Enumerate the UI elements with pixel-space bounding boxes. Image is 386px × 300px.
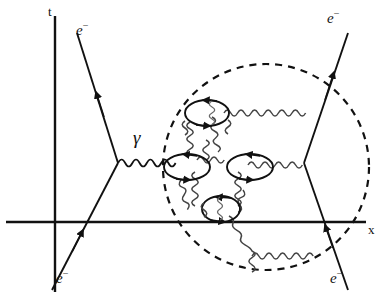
electron-charge: − bbox=[337, 268, 343, 279]
photon-top-to-right-electron bbox=[224, 110, 306, 116]
electron-loop-middle-right bbox=[227, 154, 273, 180]
photon-center-left-vertical bbox=[192, 172, 198, 206]
loop-photon-connectors bbox=[182, 120, 231, 217]
outgoing-electron-right-arrow bbox=[325, 72, 334, 100]
dashed-blob-circle bbox=[163, 64, 369, 270]
radiative-correction-blob bbox=[163, 64, 369, 270]
electron-label-incoming-top-left: e− bbox=[76, 20, 88, 39]
internal-photon-lines bbox=[179, 110, 313, 272]
connector-top-loop-to-left bbox=[182, 121, 188, 135]
incoming-electron-right-arrow bbox=[325, 225, 333, 248]
loop-top-internal-photon bbox=[209, 101, 214, 124]
electron-label-outgoing-top-right: e− bbox=[327, 8, 339, 27]
loop-bottom-internal-photon bbox=[218, 197, 223, 220]
electron-loop-top bbox=[185, 100, 229, 126]
photon-upper-diagonal-right bbox=[211, 117, 220, 152]
connector-top-loop-right-down bbox=[225, 120, 231, 134]
outgoing-electron-left-arrow bbox=[96, 92, 104, 117]
electron-symbol: e bbox=[330, 270, 337, 286]
photon-left-descending bbox=[179, 180, 189, 210]
photon-bottom-horizontal-run bbox=[252, 253, 313, 259]
loop-middle-left-arrow-lower bbox=[176, 179, 190, 180]
electron-label-outgoing-bottom-right: e− bbox=[330, 268, 342, 287]
photon-label: γ bbox=[133, 127, 141, 149]
electron-charge: − bbox=[83, 20, 89, 31]
photon-upper-left-vertical bbox=[187, 122, 193, 156]
loop-middle-right-arrow-lower bbox=[239, 179, 253, 180]
diagram-canvas bbox=[0, 0, 386, 300]
incoming-electron-left-arrow bbox=[72, 230, 83, 252]
electron-loop-bottom bbox=[202, 196, 240, 222]
photon-middle-to-right-electron bbox=[248, 162, 302, 168]
loop-top-arrow-lower bbox=[196, 125, 210, 126]
photon-center-cross-horizontal bbox=[197, 157, 224, 163]
time-axis-label: t bbox=[48, 4, 52, 20]
electron-symbol: e bbox=[76, 22, 83, 38]
electron-charge: − bbox=[63, 268, 69, 279]
loop-top-arrow-upper bbox=[203, 100, 217, 101]
space-axis-label: x bbox=[368, 222, 375, 238]
electron-symbol: e bbox=[56, 270, 63, 286]
electron-label-incoming-bottom-left: e− bbox=[56, 268, 68, 287]
electron-symbol: e bbox=[327, 10, 334, 26]
loop-top-ellipse bbox=[185, 100, 229, 126]
electron-charge: − bbox=[334, 8, 340, 19]
feynman-diagram-figure: t x γ e− e− e− e− bbox=[0, 0, 386, 300]
loop-middle-right-ellipse bbox=[227, 154, 273, 180]
